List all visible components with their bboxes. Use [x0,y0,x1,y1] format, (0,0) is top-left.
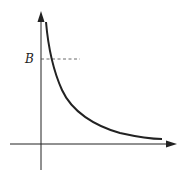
x-axis-arrow-icon [166,141,177,148]
graph: B [0,0,187,187]
y-axis-arrow-icon [38,11,45,22]
b-label: B [24,52,34,66]
decay-curve [46,22,162,139]
